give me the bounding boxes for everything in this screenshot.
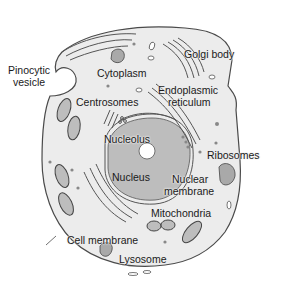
label-nucleus: Nucleus (112, 171, 150, 183)
label-nuclear-membrane: Nuclear membrane (164, 173, 214, 197)
label-centrosomes: Centrosomes (76, 96, 138, 108)
label-nucleolus: Nucleolus (104, 133, 150, 145)
label-pinocytic-line2: vesicle (8, 76, 50, 88)
label-nm-line1: Nuclear (164, 173, 214, 185)
cell-diagram (0, 0, 285, 291)
leader-lines (46, 236, 56, 245)
label-golgi-body: Golgi body (184, 48, 234, 60)
vacuole-right (219, 164, 235, 185)
label-pinocytic-line1: Pinocytic (8, 64, 50, 76)
label-mitochondria: Mitochondria (151, 207, 211, 219)
label-cell-membrane: Cell membrane (67, 234, 138, 246)
label-pinocytic-vesicle: Pinocytic vesicle (8, 64, 50, 88)
vacuole-top (111, 49, 124, 63)
label-er-line2: reticulum (158, 96, 218, 108)
label-lysosome: Lysosome (119, 253, 166, 265)
nucleolus (139, 143, 155, 159)
label-nm-line2: membrane (164, 185, 214, 197)
label-cytoplasm: Cytoplasm (97, 67, 147, 79)
label-ribosomes: Ribosomes (207, 149, 260, 161)
label-er-line1: Endoplasmic (158, 84, 218, 96)
label-endoplasmic-reticulum: Endoplasmic reticulum (158, 84, 218, 108)
